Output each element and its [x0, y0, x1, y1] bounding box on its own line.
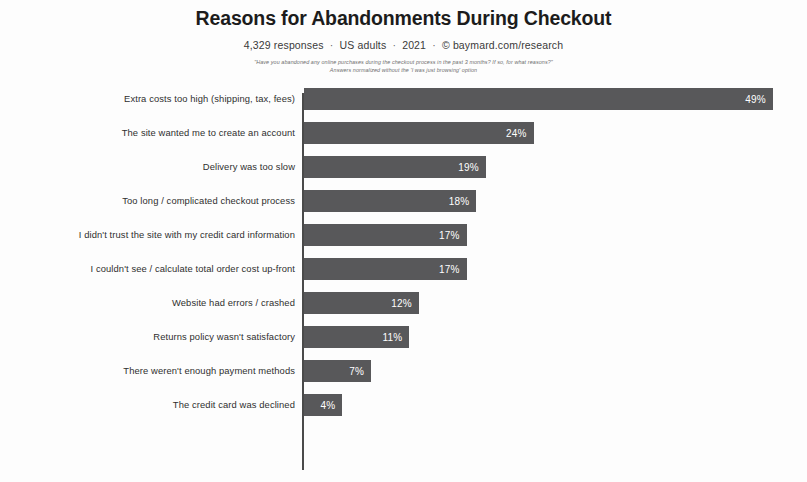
bar: 12%: [304, 292, 419, 314]
bar-category-label: I couldn't see / calculate total order c…: [91, 258, 296, 280]
subtitle-responses: 4,329 responses: [244, 39, 324, 51]
chart-subtitle: 4,329 responses · US adults · 2021 · © b…: [0, 39, 807, 52]
subtitle-separator: ·: [327, 39, 337, 51]
bar: 18%: [304, 190, 476, 212]
bar-category-label: The site wanted me to create an account: [122, 122, 295, 144]
bar-value-label: 12%: [391, 298, 419, 309]
plot-area: Extra costs too high (shipping, tax, fee…: [0, 88, 807, 482]
bar-row: Extra costs too high (shipping, tax, fee…: [0, 88, 807, 122]
subtitle-source: © baymard.com/research: [442, 39, 563, 51]
bar: 7%: [304, 360, 371, 382]
bar-category-label: Too long / complicated checkout process: [122, 190, 295, 212]
bar-category-label: I didn't trust the site with my credit c…: [79, 224, 295, 246]
bar-category-label: Returns policy wasn't satisfactory: [153, 326, 295, 348]
bar: 19%: [304, 156, 486, 178]
bar-value-label: 19%: [458, 162, 486, 173]
bar: 24%: [304, 122, 534, 144]
chart-header: Reasons for Abandonments During Checkout…: [0, 0, 807, 74]
subtitle-audience: US adults: [339, 39, 386, 51]
bar: 11%: [304, 326, 409, 348]
bar-rows: Extra costs too high (shipping, tax, fee…: [0, 88, 807, 428]
subtitle-separator: ·: [429, 39, 439, 51]
bar-row: The site wanted me to create an account2…: [0, 122, 807, 156]
chart-container: Reasons for Abandonments During Checkout…: [0, 0, 807, 482]
bar-row: Returns policy wasn't satisfactory11%: [0, 326, 807, 360]
bar-value-label: 4%: [320, 400, 342, 411]
bar-category-label: There weren't enough payment methods: [123, 360, 295, 382]
bar-row: The credit card was declined4%: [0, 394, 807, 428]
caption-question: "Have you abandoned any online purchases…: [0, 58, 807, 66]
bar: 17%: [304, 224, 467, 246]
bar-value-label: 17%: [439, 230, 467, 241]
bar-category-label: Delivery was too slow: [203, 156, 295, 178]
bar-value-label: 18%: [449, 196, 477, 207]
bar-value-label: 24%: [506, 128, 534, 139]
bar-category-label: The credit card was declined: [173, 394, 295, 416]
bar-value-label: 11%: [382, 332, 409, 343]
bar-category-label: Extra costs too high (shipping, tax, fee…: [124, 88, 295, 110]
bar-value-label: 7%: [349, 366, 371, 377]
bar-value-label: 17%: [439, 264, 467, 275]
subtitle-separator: ·: [389, 39, 399, 51]
bar-category-label: Website had errors / crashed: [172, 292, 295, 314]
subtitle-year: 2021: [402, 39, 426, 51]
bar-row: Website had errors / crashed12%: [0, 292, 807, 326]
bar: 4%: [304, 394, 342, 416]
bar-row: Too long / complicated checkout process1…: [0, 190, 807, 224]
bar-row: I didn't trust the site with my credit c…: [0, 224, 807, 258]
page-title: Reasons for Abandonments During Checkout: [0, 6, 807, 30]
bar: 17%: [304, 258, 467, 280]
bar-value-label: 49%: [745, 94, 773, 105]
bar-row: There weren't enough payment methods7%: [0, 360, 807, 394]
bar: 49%: [304, 88, 773, 110]
chart-caption: "Have you abandoned any online purchases…: [0, 58, 807, 74]
caption-note: Answers normalized without the 'I was ju…: [0, 66, 807, 74]
bar-row: Delivery was too slow19%: [0, 156, 807, 190]
bar-row: I couldn't see / calculate total order c…: [0, 258, 807, 292]
